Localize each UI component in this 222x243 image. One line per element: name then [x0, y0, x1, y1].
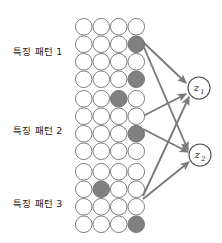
diagram-canvas: z1z2 특징 패턴 1특징 패턴 2특징 패턴 3: [0, 0, 222, 243]
output-node-z1-subscript: 1: [200, 88, 204, 96]
output-node-z2: z2: [189, 144, 211, 166]
output-node-z2-label: z: [194, 149, 201, 160]
output-node-z1: z1: [188, 77, 210, 99]
output-node-layer: z1z2: [0, 0, 222, 243]
output-node-z2-subscript: 2: [200, 155, 205, 163]
output-node-z1-label: z: [193, 82, 200, 93]
